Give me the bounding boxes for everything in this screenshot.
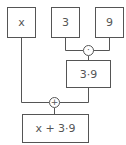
- node-sum-label: x + 3·9: [35, 122, 75, 135]
- node-product-label: 3·9: [80, 68, 98, 81]
- node-product: 3·9: [66, 60, 111, 88]
- add-operator-icon: +: [49, 97, 60, 108]
- node-nine: 9: [95, 7, 124, 38]
- node-sum: x + 3·9: [22, 114, 89, 143]
- node-x: x: [7, 7, 36, 38]
- node-nine-label: 9: [106, 16, 113, 29]
- node-three-label: 3: [62, 16, 69, 29]
- node-three: 3: [51, 7, 80, 38]
- multiply-operator-icon: ·: [83, 45, 94, 56]
- node-x-label: x: [18, 16, 25, 29]
